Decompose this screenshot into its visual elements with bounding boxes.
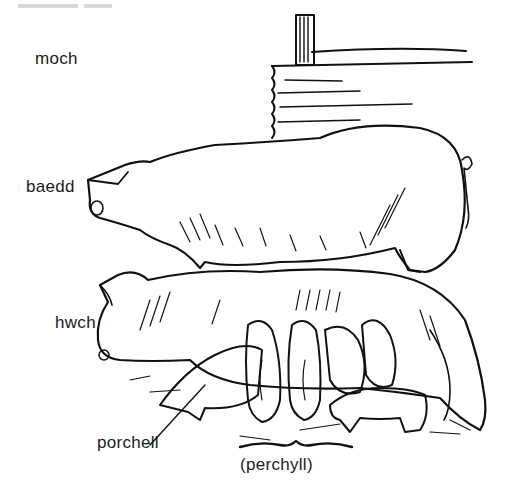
label-perchyll: (perchyll) — [240, 455, 313, 475]
label-porchell: porchell — [97, 433, 159, 453]
fence-rails — [272, 49, 472, 138]
piglets — [160, 320, 427, 432]
pig-illustration — [0, 0, 510, 492]
perchyll-brace — [240, 441, 352, 447]
label-hwch: hwch — [55, 313, 96, 333]
fence-post — [296, 15, 314, 65]
label-baedd: baedd — [26, 177, 75, 197]
label-moch: moch — [35, 49, 78, 69]
boar — [88, 126, 472, 272]
